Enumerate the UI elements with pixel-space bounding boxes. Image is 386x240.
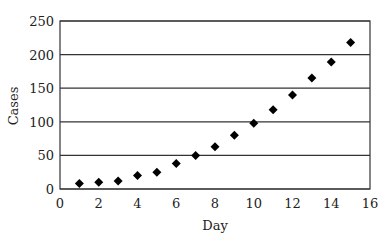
x-tick-label: 4	[133, 196, 141, 211]
x-axis-ticks: 0246810121416	[56, 196, 378, 211]
y-tick-label: 50	[37, 148, 54, 163]
x-tick-label: 0	[56, 196, 64, 211]
gridlines	[60, 21, 370, 189]
diamond-marker	[94, 178, 103, 187]
diamond-marker	[152, 168, 161, 177]
y-tick-label: 150	[29, 81, 54, 96]
x-tick-label: 6	[172, 196, 180, 211]
diamond-marker	[346, 38, 355, 47]
diamond-marker	[230, 131, 239, 140]
diamond-marker	[75, 179, 84, 188]
diamond-marker	[307, 74, 316, 83]
x-tick-label: 16	[362, 196, 379, 211]
diamond-marker	[172, 159, 181, 168]
scatter-chart: 050100150200250 0246810121416 Day Cases	[0, 0, 386, 240]
y-axis-title: Cases	[6, 87, 21, 126]
x-axis-title: Day	[202, 218, 228, 233]
y-tick-label: 250	[29, 14, 54, 29]
diamond-marker	[211, 142, 220, 151]
x-tick-label: 14	[323, 196, 340, 211]
plot-frame	[60, 21, 370, 189]
data-points	[75, 38, 355, 188]
x-tick-label: 8	[211, 196, 219, 211]
x-tick-label: 12	[284, 196, 301, 211]
diamond-marker	[327, 57, 336, 66]
y-tick-label: 100	[29, 115, 54, 130]
plot-border	[60, 21, 370, 189]
diamond-marker	[269, 105, 278, 114]
diamond-marker	[191, 151, 200, 160]
y-tick-label: 200	[29, 48, 54, 63]
y-tick-label: 0	[46, 182, 54, 197]
diamond-marker	[114, 176, 123, 185]
x-tick-label: 2	[95, 196, 103, 211]
diamond-marker	[249, 119, 258, 128]
diamond-marker	[133, 171, 142, 180]
y-axis-ticks: 050100150200250	[29, 14, 54, 197]
diamond-marker	[288, 90, 297, 99]
x-tick-label: 10	[245, 196, 262, 211]
